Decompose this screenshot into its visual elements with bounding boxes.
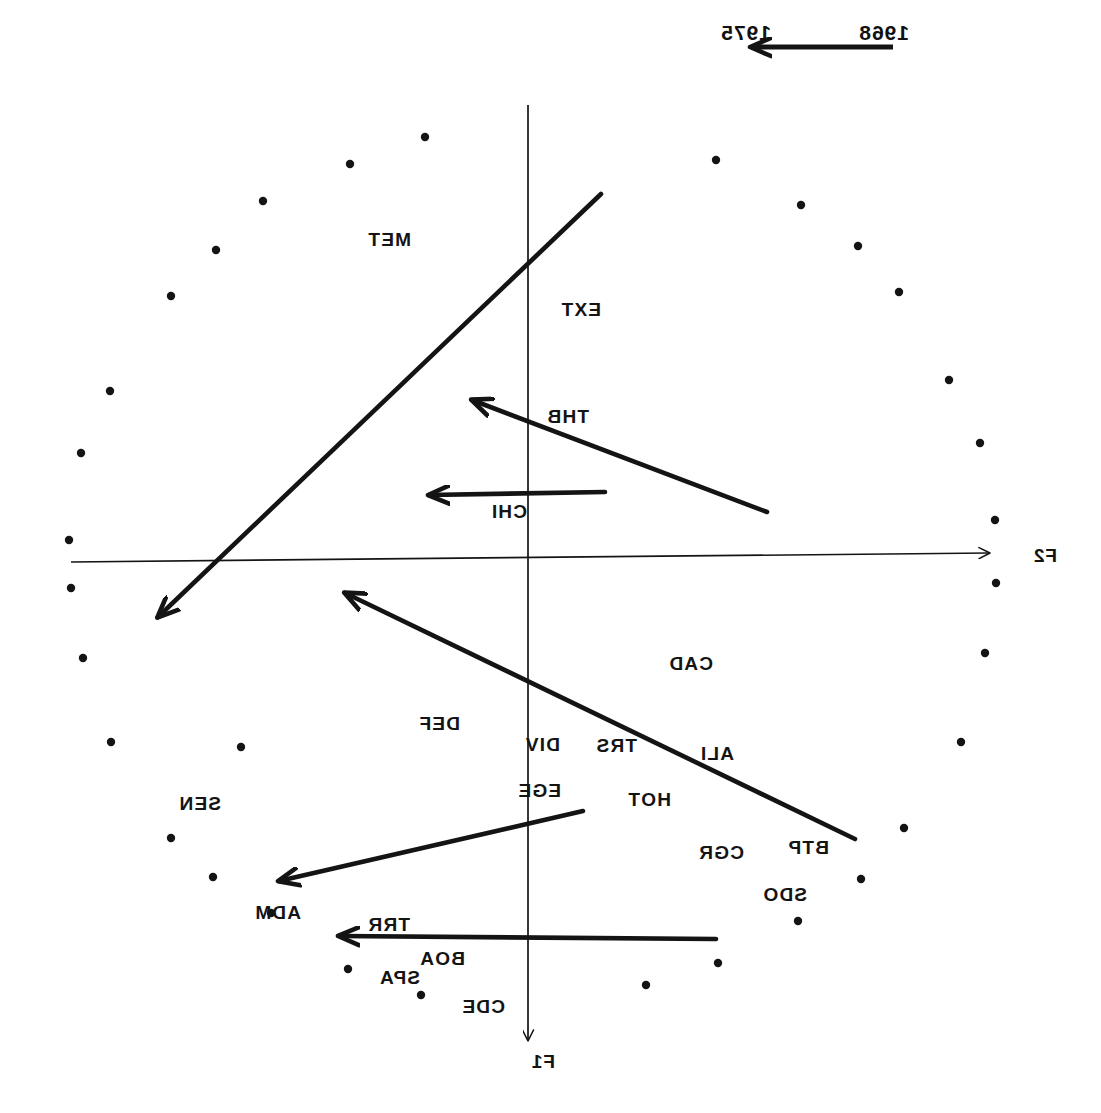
scatter-point	[642, 981, 650, 989]
point-label-cgr: CGR	[698, 843, 744, 862]
scatter-point	[346, 160, 354, 168]
scatter-point	[712, 156, 720, 164]
point-label-btp: BTP	[787, 838, 829, 857]
point-label-boa: BOA	[419, 949, 465, 968]
scatter-point	[976, 439, 984, 447]
point-label-ege: EGE	[517, 781, 561, 800]
scatter-point	[945, 376, 953, 384]
scatter-point	[900, 824, 908, 832]
scatter-point	[106, 387, 114, 395]
chi-arrow	[429, 492, 605, 495]
point-label-met: MET	[367, 230, 411, 249]
scatter-point	[421, 133, 429, 141]
met-ext-arrow	[158, 194, 601, 617]
scatter-point	[895, 288, 903, 296]
point-label-sdo: SDO	[762, 885, 807, 904]
point-label-adm: ADM	[254, 903, 301, 922]
point-label-ali: ALI	[700, 744, 734, 763]
scatter-point	[77, 449, 85, 457]
axis-f2-line	[71, 553, 989, 562]
axis-label-f1: F1	[531, 1052, 555, 1071]
scatter-point	[797, 201, 805, 209]
scatter-point	[259, 197, 267, 205]
axis-label-f2: F2	[1033, 546, 1057, 565]
point-label-hot: HOT	[627, 790, 671, 809]
point-label-cad: CAD	[668, 654, 713, 673]
scatter-point	[981, 649, 989, 657]
point-label-sen: SEN	[178, 794, 221, 813]
scatter-point	[344, 965, 352, 973]
scatter-point	[209, 873, 217, 881]
axis-group	[71, 105, 989, 1040]
scatter-points-layer	[65, 133, 1000, 999]
scatter-point	[65, 536, 73, 544]
scatter-point	[107, 738, 115, 746]
scatter-point	[67, 584, 75, 592]
scatter-point	[79, 654, 87, 662]
point-label-chi: CHI	[491, 502, 527, 521]
scatter-point	[957, 738, 965, 746]
point-label-trs: TRS	[595, 736, 637, 755]
scatter-point	[794, 917, 802, 925]
scatter-point	[167, 834, 175, 842]
point-label-thb: THB	[546, 407, 589, 426]
scatter-point	[854, 242, 862, 250]
legend-start-year: 1968	[858, 22, 909, 43]
point-label-div: DIV	[525, 735, 560, 754]
mirrored-plot-canvas: 1968 1975 F2 F1 METEXTTHBCHICADDEFDIVTRS…	[0, 0, 1101, 1113]
scatter-point	[714, 959, 722, 967]
scatter-point	[417, 991, 425, 999]
scatter-point	[237, 743, 245, 751]
point-label-spa: SPA	[379, 968, 420, 987]
adm-arrow	[279, 811, 583, 881]
scatter-point	[212, 246, 220, 254]
scatter-point	[857, 875, 865, 883]
legend-end-year: 1975	[720, 22, 771, 43]
scatter-point	[992, 579, 1000, 587]
scatter-point	[991, 516, 999, 524]
point-label-ext: EXT	[560, 300, 601, 319]
plot-vector-layer	[0, 0, 1101, 1113]
point-label-trr: TRR	[367, 915, 410, 934]
point-label-def: DEF	[418, 714, 460, 733]
trajectory-arrows-layer	[158, 194, 855, 939]
scatter-point	[167, 292, 175, 300]
point-label-cde: CDE	[461, 997, 505, 1016]
trr-arrow	[339, 936, 716, 939]
